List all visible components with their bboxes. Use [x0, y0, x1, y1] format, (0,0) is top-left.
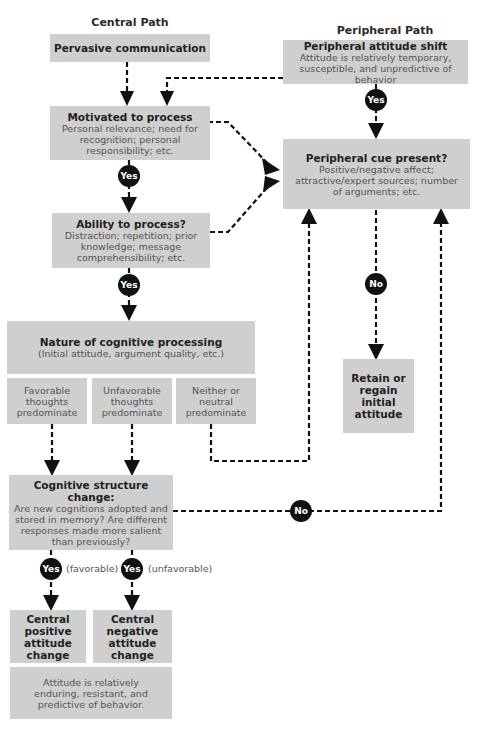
central-positive-title: Central positive attitude change [14, 613, 82, 661]
cognitive-title: Cognitive structure change: [13, 479, 169, 503]
neither-text: Neither or neutral predominate [180, 385, 252, 418]
peripheral-shift-title: Peripheral attitude shift [304, 40, 448, 52]
motivated-title: Motivated to process [67, 111, 192, 123]
yes-badge-unfavorable: Yes [121, 558, 143, 580]
peripheral-attitude-shift-box: Peripheral attitude shift Attitude is re… [283, 40, 468, 84]
enduring-text: Attitude is relatively enduring, resista… [14, 677, 168, 710]
retain-title: Retain or regain initial attitude [347, 372, 410, 420]
no-badge-cognitive: No [290, 500, 312, 522]
motivated-desc: Personal relevance; need for recognition… [54, 123, 206, 156]
arrow-peripheral-shift-to-motivated [167, 78, 283, 94]
yes-badge-ability: Yes [118, 274, 140, 296]
retain-initial-attitude-box: Retain or regain initial attitude [343, 359, 414, 433]
peripheral-cue-desc: Positive/negative affect; attractive/exp… [287, 164, 466, 197]
neither-thoughts-box: Neither or neutral predominate [176, 378, 256, 424]
cognitive-structure-change-box: Cognitive structure change: Are new cogn… [9, 475, 173, 550]
motivated-to-process-box: Motivated to process Personal relevance;… [50, 106, 210, 160]
peripheral-shift-desc: Attitude is relatively temporary, suscep… [287, 52, 464, 85]
unfavorable-thoughts-box: Unfavorable thoughts predominate [92, 378, 172, 424]
nature-desc: (Initial attitude, argument quality, etc… [38, 348, 224, 359]
yes-badge-peripheral-shift: Yes [365, 89, 387, 111]
unfavorable-label: (unfavorable) [148, 563, 212, 574]
favorable-text: Favorable thoughts predominate [11, 385, 83, 418]
yes-badge-favorable: Yes [40, 558, 62, 580]
ability-desc: Distraction; repetition; prior knowledge… [56, 230, 206, 263]
favorable-thoughts-box: Favorable thoughts predominate [7, 378, 87, 424]
central-negative-box: Central negative attitude change [93, 610, 172, 663]
cognitive-desc: Are new cognitions adopted and stored in… [13, 503, 169, 547]
peripheral-path-header: Peripheral Path [310, 24, 460, 37]
arrow-motivated-to-cue [208, 122, 272, 168]
pervasive-communication-title: Pervasive communication [54, 42, 206, 54]
nature-title: Nature of cognitive processing [40, 336, 222, 348]
yes-badge-motivated: Yes [118, 165, 140, 187]
no-badge-peripheral-cue: No [365, 273, 387, 295]
peripheral-cue-box: Peripheral cue present? Positive/negativ… [283, 139, 470, 209]
central-path-header: Central Path [60, 16, 200, 29]
unfavorable-text: Unfavorable thoughts predominate [96, 385, 168, 418]
enduring-attitude-box: Attitude is relatively enduring, resista… [10, 667, 172, 719]
ability-title: Ability to process? [76, 218, 186, 230]
arrow-ability-to-cue [210, 182, 272, 232]
pervasive-communication-box: Pervasive communication [50, 34, 210, 62]
ability-to-process-box: Ability to process? Distraction; repetit… [52, 213, 210, 268]
central-negative-title: Central negative attitude change [97, 613, 168, 661]
central-positive-box: Central positive attitude change [10, 610, 86, 663]
favorable-label: (favorable) [66, 563, 118, 574]
peripheral-cue-title: Peripheral cue present? [306, 152, 447, 164]
nature-of-processing-box: Nature of cognitive processing (Initial … [7, 321, 255, 374]
